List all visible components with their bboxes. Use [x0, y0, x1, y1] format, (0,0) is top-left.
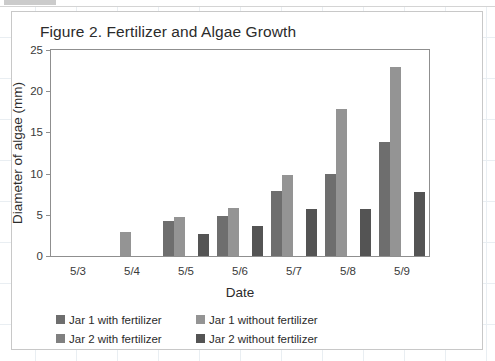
y-axis-tick: [46, 256, 51, 257]
y-axis-tick: [46, 50, 51, 51]
bar: [336, 109, 347, 256]
x-axis-tick-label: 5/9: [394, 265, 410, 277]
legend-swatch-icon: [196, 315, 205, 324]
legend-label: Jar 2 with fertilizer: [69, 333, 162, 345]
bar: [228, 208, 239, 256]
y-axis-tick-label: 15: [30, 126, 43, 138]
bar: [306, 209, 317, 256]
bar-group: 5/6: [213, 50, 267, 256]
bar: [325, 174, 336, 256]
bar-group: 5/7: [267, 50, 321, 256]
bar: [252, 226, 263, 256]
bar-group: 5/5: [159, 50, 213, 256]
bar-group: 5/4: [105, 50, 159, 256]
legend-item[interactable]: Jar 2 without fertilizer: [196, 333, 366, 345]
legend-item[interactable]: Jar 1 without fertilizer: [196, 314, 366, 326]
y-axis-tick: [46, 91, 51, 92]
x-axis-tick-label: 5/3: [70, 265, 86, 277]
legend-label: Jar 2 without fertilizer: [209, 333, 318, 345]
y-axis-tick-label: 20: [30, 85, 43, 97]
x-axis-tick-label: 5/8: [340, 265, 356, 277]
y-axis-tick-label: 25: [30, 44, 43, 56]
x-axis-tick-label: 5/4: [124, 265, 140, 277]
y-axis-tick: [46, 132, 51, 133]
y-axis-tick-label: 10: [30, 168, 43, 180]
bar: [174, 217, 185, 256]
legend-swatch-icon: [196, 334, 205, 343]
x-axis-tick-label: 5/5: [178, 265, 194, 277]
bar: [217, 216, 228, 256]
bar: [163, 221, 174, 256]
bar: [360, 209, 371, 256]
y-axis-tick-label: 5: [37, 209, 43, 221]
legend-label: Jar 1 without fertilizer: [209, 314, 318, 326]
bar: [379, 142, 390, 256]
bar: [414, 192, 425, 256]
chart-title: Figure 2. Fertilizer and Algae Growth: [40, 23, 296, 41]
bar: [271, 191, 282, 256]
bar-group: 5/8: [321, 50, 375, 256]
y-axis-tick: [46, 174, 51, 175]
plot-area: Diameter of algae (mm) 5/35/45/55/65/75/…: [50, 49, 430, 257]
x-axis-tick-label: 5/6: [232, 265, 248, 277]
bar: [120, 232, 131, 256]
chart-legend: Jar 1 with fertilizerJar 1 without ferti…: [56, 310, 386, 348]
bar: [198, 234, 209, 256]
legend-item[interactable]: Jar 2 with fertilizer: [56, 333, 196, 345]
legend-label: Jar 1 with fertilizer: [69, 314, 162, 326]
legend-swatch-icon: [56, 315, 65, 324]
legend-swatch-icon: [56, 334, 65, 343]
x-axis-tick-label: 5/7: [286, 265, 302, 277]
bar: [390, 67, 401, 256]
legend-item[interactable]: Jar 1 with fertilizer: [56, 314, 196, 326]
top-divider: [0, 6, 495, 7]
y-axis-tick: [46, 215, 51, 216]
bar-group: 5/3: [51, 50, 105, 256]
chart-card: Figure 2. Fertilizer and Algae Growth Di…: [11, 11, 483, 350]
y-axis-tick-label: 0: [37, 250, 43, 262]
bar-group: 5/9: [375, 50, 429, 256]
top-header-smudge: [4, 0, 56, 5]
plot-inner: 5/35/45/55/65/75/85/9: [51, 50, 429, 256]
y-axis-title: Diameter of algae (mm): [10, 82, 25, 224]
x-axis-title: Date: [226, 285, 255, 300]
bar: [282, 175, 293, 256]
